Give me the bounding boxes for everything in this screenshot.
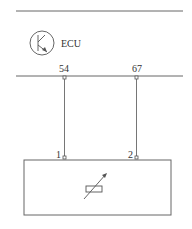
variable-resistor-icon <box>84 173 107 199</box>
sensor-pin-1-label: 1 <box>56 149 61 160</box>
transistor-icon <box>30 31 54 55</box>
sensor-pin-2-terminal <box>135 156 138 159</box>
ecu-pin-67-label: 67 <box>132 63 142 74</box>
ecu-pin-54-terminal <box>63 76 66 79</box>
sensor-pin-2-label: 2 <box>128 149 133 160</box>
wiring-diagram: ECU 54 67 1 2 <box>0 0 192 229</box>
ecu-label: ECU <box>61 38 82 49</box>
ecu-pin-67-terminal <box>135 76 138 79</box>
sensor-component-box <box>24 160 171 215</box>
ecu-pin-54-label: 54 <box>59 63 69 74</box>
sensor-pin-1-terminal <box>63 156 66 159</box>
